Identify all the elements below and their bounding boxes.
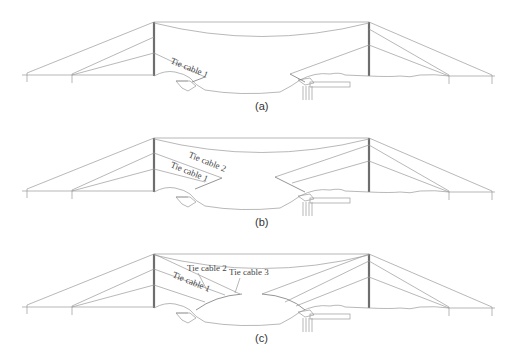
panel-a: Tie cable 1 (a) (22, 22, 495, 112)
panel-b: Tie cable 2 Tie cable 1 (b) (22, 138, 495, 228)
caption-b: (b) (255, 216, 268, 228)
bridge-construction-diagram: Tie cable 1 (a) Tie cable 2 Tie cable 1 … (0, 0, 527, 360)
panel-c: Tie cable 2 Tie cable 3 Tie cable 1 (c) (22, 254, 495, 344)
caption-c: (c) (255, 332, 268, 344)
tie-cable-2-label: Tie cable 2 (187, 263, 227, 273)
tie-cable-1-label: Tie cable 1 (171, 270, 212, 294)
tie-cable-1-label: Tie cable 1 (169, 56, 210, 80)
caption-a: (a) (255, 100, 268, 112)
tie-cable-3-label: Tie cable 3 (229, 267, 269, 277)
